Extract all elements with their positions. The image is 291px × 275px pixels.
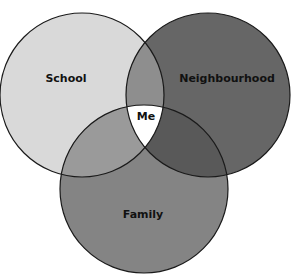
family-label: Family [123, 208, 163, 221]
neighbourhood-label: Neighbourhood [179, 72, 275, 85]
school-label: School [45, 72, 86, 85]
me-label: Me [137, 110, 155, 123]
venn-diagram: School Neighbourhood Family Me [0, 0, 291, 275]
